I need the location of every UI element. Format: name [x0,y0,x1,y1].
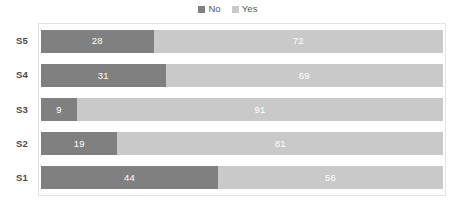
bar-segment-no[interactable]: 28 [41,30,154,53]
bar-value-label: 91 [255,105,266,115]
bar-value-label: 44 [124,173,135,183]
bar-segment-yes[interactable]: 91 [77,98,443,121]
category-label-s2: S2 [0,138,28,149]
category-label-s4: S4 [0,69,28,80]
bar-value-label: 56 [325,173,336,183]
legend-entry-no[interactable]: No [198,4,220,14]
bar-value-label: 19 [74,139,85,149]
bar-segment-yes[interactable]: 56 [218,166,443,189]
legend-entry-yes[interactable]: Yes [232,4,258,14]
chart-legend: No Yes [0,1,456,17]
bar-row: 3169 [41,64,443,87]
legend-label-no: No [208,4,220,14]
square-marker-icon [232,6,239,13]
bar-value-label: 81 [275,139,286,149]
bar-value-label: 72 [293,36,304,46]
stacked-bar-chart: No Yes S5S4S3S2S1 2872316999119814456 [0,0,456,202]
bar-row: 1981 [41,132,443,155]
bar-value-label: 28 [92,36,103,46]
bar-value-label: 9 [56,105,61,115]
bar-segment-no[interactable]: 9 [41,98,77,121]
square-marker-icon [198,6,205,13]
bar-value-label: 69 [299,71,310,81]
bar-segment-yes[interactable]: 72 [154,30,443,53]
category-axis: S5S4S3S2S1 [0,23,36,196]
category-label-s5: S5 [0,35,28,46]
category-label-s3: S3 [0,104,28,115]
bar-segment-no[interactable]: 31 [41,64,166,87]
bar-segment-yes[interactable]: 69 [166,64,443,87]
category-label-s1: S1 [0,172,28,183]
bar-row: 2872 [41,30,443,53]
bar-segment-no[interactable]: 44 [41,166,218,189]
bar-segment-yes[interactable]: 81 [117,132,443,155]
bar-row: 991 [41,98,443,121]
legend-label-yes: Yes [242,4,258,14]
bars-layer: 2872316999119814456 [39,24,445,195]
bar-segment-no[interactable]: 19 [41,132,117,155]
bar-value-label: 31 [98,71,109,81]
bar-row: 4456 [41,166,443,189]
